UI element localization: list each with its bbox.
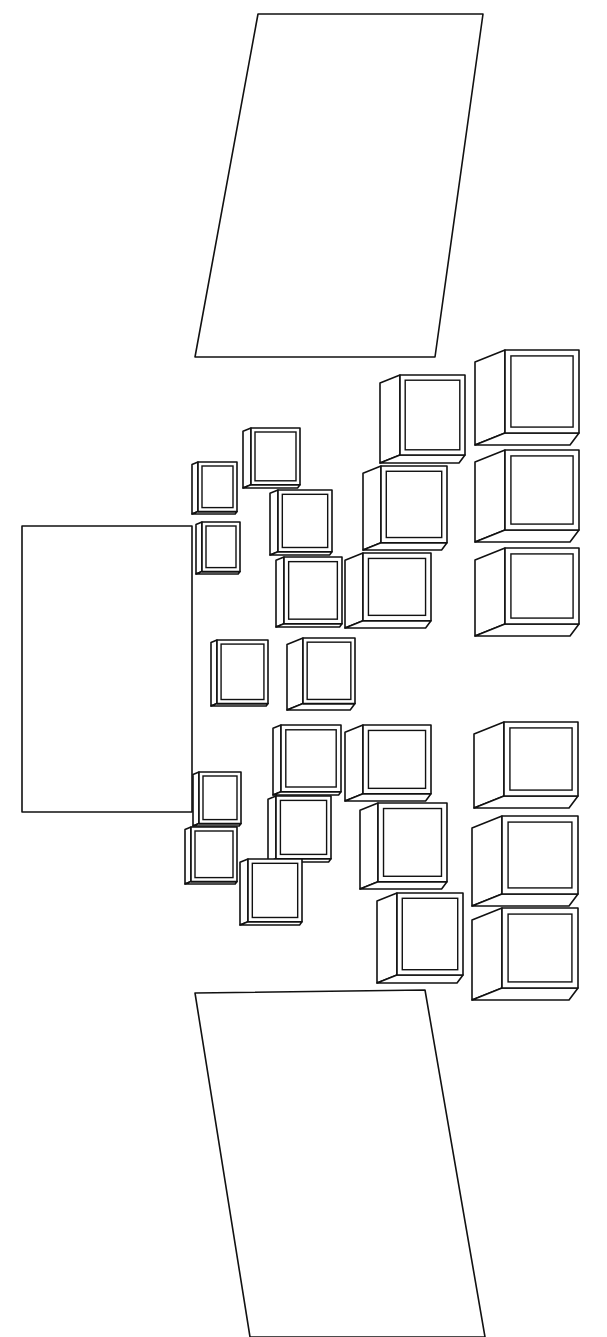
cube xyxy=(380,375,465,463)
cube xyxy=(360,803,447,889)
cube xyxy=(474,722,578,808)
cube xyxy=(240,859,302,925)
cube xyxy=(472,816,578,906)
diagram-canvas xyxy=(0,0,607,1337)
cube xyxy=(268,796,331,862)
cube xyxy=(377,893,463,983)
top-panel xyxy=(195,14,483,357)
bottom-panel xyxy=(195,990,485,1337)
cube xyxy=(211,640,268,706)
cube xyxy=(345,725,431,801)
cube xyxy=(363,466,447,550)
cube xyxy=(472,908,578,1000)
center-rectangle xyxy=(22,526,192,812)
cube xyxy=(270,490,332,555)
cube xyxy=(273,725,341,795)
cube xyxy=(243,428,300,488)
cube xyxy=(192,462,237,514)
cube xyxy=(345,553,431,628)
cube-group xyxy=(185,350,579,1000)
cube xyxy=(196,522,240,574)
cube xyxy=(193,772,241,826)
cube xyxy=(475,350,579,445)
cube xyxy=(185,827,237,884)
cube xyxy=(475,450,579,542)
cube xyxy=(276,557,342,627)
cube xyxy=(287,638,355,710)
cube xyxy=(475,548,579,636)
